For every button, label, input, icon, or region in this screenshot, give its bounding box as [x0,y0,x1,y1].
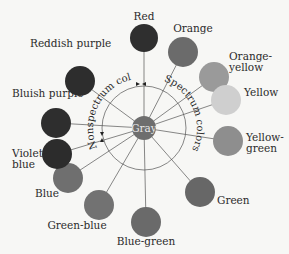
color-swatch-yellow-green [213,126,243,156]
arrow-marker-left [100,132,104,142]
color-swatch-blue-green [131,207,161,237]
color-label-blue: Blue [35,187,59,199]
color-node-yellow-green: Yellow-green [213,126,284,156]
color-label-red: Red [134,10,155,22]
color-node-green: Green [185,177,250,207]
color-node-blue-green: Blue-green [117,207,176,247]
color-label-orange: Orange [173,22,213,34]
color-swatch-green [185,177,215,207]
color-node-yellow: Yellow [211,85,278,115]
color-label-yellow: Yellow [243,86,278,98]
color-swatch-violet-blue [42,139,72,169]
color-label-blue-green: Blue-green [117,235,176,247]
color-label-green: Green [217,194,250,206]
color-swatch-reddish-purple [65,66,95,96]
color-node-bluish-purple: Bluish purple [12,87,83,138]
color-label-reddish-purple: Reddish purple [30,37,111,49]
color-label-violet-blue: Violet-blue [11,147,47,170]
color-node-violet-blue: Violet-blue [11,139,72,170]
color-label-green-blue: Green-blue [47,219,106,231]
arrow-marker-top [136,82,146,86]
color-wheel-diagram: Nonspectrum colors Spectrum colors RedOr… [0,0,289,254]
color-label-yellow-green: Yellow-green [245,131,284,154]
spectrum-arc-label: Spectrum colors [163,73,206,154]
center-gray-label: Gray [131,122,157,134]
color-swatch-red [130,24,158,52]
color-swatch-yellow [211,85,241,115]
color-node-orange: Orange [168,22,213,67]
color-swatch-orange [168,37,198,67]
color-swatch-bluish-purple [41,108,71,138]
color-label-orange-yellow: Orange-yellow [228,50,273,73]
color-node-red: Red [130,10,158,52]
color-swatch-green-blue [84,190,114,220]
